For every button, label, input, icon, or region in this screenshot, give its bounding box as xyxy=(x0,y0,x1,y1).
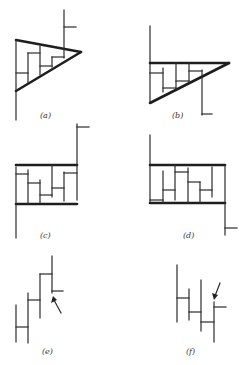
panel-e: (e) xyxy=(16,256,63,356)
arrow-icon xyxy=(54,300,61,313)
panel-c: (c) xyxy=(16,124,89,240)
panel-label: (a) xyxy=(40,111,51,120)
triangle-upper-line xyxy=(16,40,81,52)
panel-a: (a) xyxy=(16,10,81,120)
panel-d: (d) xyxy=(150,135,237,240)
panel-label: (f) xyxy=(186,347,195,356)
arrow-icon xyxy=(215,283,220,296)
arrow-head-icon xyxy=(212,293,218,300)
triangle-lower-line xyxy=(16,52,81,91)
panel-label: (e) xyxy=(42,347,53,356)
panel-label: (c) xyxy=(40,231,51,240)
panel-label: (d) xyxy=(183,231,194,240)
panel-f: (f) xyxy=(177,265,226,356)
panel-b: (b) xyxy=(150,26,229,120)
panel-label: (b) xyxy=(172,111,183,120)
arrow-head-icon xyxy=(51,296,57,303)
chart-patterns-figure: (a) (b) (c) xyxy=(0,0,246,365)
